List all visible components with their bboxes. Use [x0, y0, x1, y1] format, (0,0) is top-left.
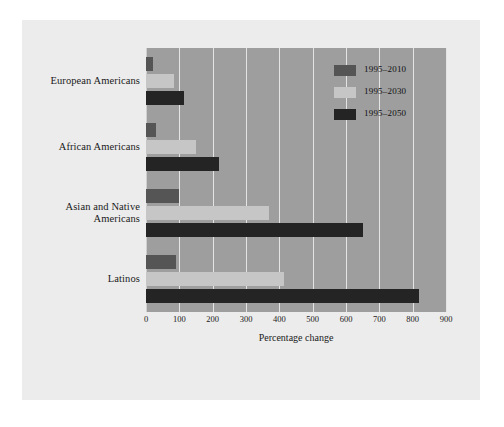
category-label-line: African Americans: [20, 141, 140, 153]
bar: [146, 189, 179, 203]
legend-label: 1995–2010: [364, 64, 406, 74]
legend-swatch-icon: [334, 65, 356, 76]
x-tick-label: 600: [340, 314, 353, 324]
x-tick-label: 200: [206, 314, 219, 324]
legend-label: 1995–2050: [364, 108, 406, 118]
figure-root: European AmericansAfrican AmericansAsian…: [0, 0, 504, 427]
x-tick-label: 500: [306, 314, 319, 324]
x-tick-label: 800: [406, 314, 419, 324]
category-label-line: Latinos: [20, 273, 140, 285]
x-tick-label: 700: [373, 314, 386, 324]
bar: [146, 74, 174, 88]
x-tick-label: 100: [173, 314, 186, 324]
legend: 1995–20101995–20301995–2050: [334, 62, 434, 128]
bar: [146, 140, 196, 154]
bar: [146, 123, 156, 137]
category-label: African Americans: [20, 141, 140, 153]
bar-group: [146, 255, 446, 303]
legend-swatch-icon: [334, 87, 356, 98]
legend-label: 1995–2030: [364, 86, 406, 96]
gridline-900: [446, 48, 447, 312]
bar: [146, 91, 184, 105]
category-label-line: Americans: [20, 213, 140, 225]
category-label-line: Asian and Native: [20, 201, 140, 213]
legend-item[interactable]: 1995–2010: [334, 62, 434, 82]
bar: [146, 57, 153, 71]
bar: [146, 289, 419, 303]
x-axis-ticks: 0100200300400500600700800900: [146, 314, 446, 332]
x-tick-label: 300: [240, 314, 253, 324]
category-label-line: European Americans: [20, 75, 140, 87]
bar-group: [146, 189, 446, 237]
category-label: Latinos: [20, 273, 140, 285]
category-axis-labels: European AmericansAfrican AmericansAsian…: [14, 48, 140, 312]
bar-group: [146, 123, 446, 171]
x-tick-label: 0: [144, 314, 148, 324]
legend-item[interactable]: 1995–2030: [334, 84, 434, 104]
x-axis-title: Percentage change: [146, 332, 446, 343]
bar: [146, 157, 219, 171]
bar: [146, 206, 269, 220]
x-tick-label: 400: [273, 314, 286, 324]
legend-item[interactable]: 1995–2050: [334, 106, 434, 126]
x-tick-label: 900: [440, 314, 453, 324]
bar: [146, 223, 363, 237]
bar: [146, 272, 284, 286]
legend-swatch-icon: [334, 109, 356, 120]
category-label: Asian and NativeAmericans: [20, 201, 140, 225]
category-label: European Americans: [20, 75, 140, 87]
bar: [146, 255, 176, 269]
